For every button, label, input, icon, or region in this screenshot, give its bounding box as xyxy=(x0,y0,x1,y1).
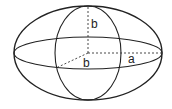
label-vertical-b: b xyxy=(91,17,98,31)
label-depth-b: b xyxy=(83,56,90,70)
ellipsoid-figure: b b a xyxy=(0,0,172,109)
ellipsoid-diagram: b b a xyxy=(0,0,172,109)
label-horizontal-a: a xyxy=(128,52,135,66)
